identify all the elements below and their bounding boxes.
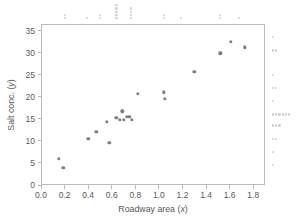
x-tick-mark	[64, 185, 65, 189]
y-marginal-dot	[272, 87, 274, 89]
x-marginal-dot	[99, 14, 101, 16]
y-marginal-dot	[272, 124, 274, 126]
y-tick-label: 20	[26, 93, 35, 102]
x-tick-mark	[206, 185, 207, 189]
x-tick-label: 0.4	[82, 191, 94, 200]
x-tick-mark	[182, 185, 183, 189]
y-marginal-dot	[275, 124, 277, 126]
x-tick-mark	[253, 185, 254, 189]
x-marginal-dot	[180, 17, 182, 19]
x-tick-label: 1.8	[247, 191, 259, 200]
x-marginal-dot	[115, 4, 117, 6]
y-marginal-dot	[278, 113, 280, 115]
y-marginal-dot	[272, 74, 274, 76]
y-marginal-dot	[275, 87, 277, 89]
y-tick-mark	[38, 185, 42, 186]
y-axis-variable: y	[6, 82, 16, 86]
x-tick-label: 1.2	[177, 191, 189, 200]
plot-area-frame	[41, 24, 265, 185]
y-axis-title: Salt conc. (y)	[7, 79, 16, 130]
x-tick-mark	[229, 185, 230, 189]
x-tick-label: 0.0	[35, 191, 47, 200]
y-marginal-dot	[272, 151, 274, 153]
x-marginal-dot	[115, 7, 117, 9]
y-marginal-dot	[275, 138, 277, 140]
y-tick-mark	[38, 96, 42, 97]
y-tick-mark	[38, 52, 42, 53]
y-tick-mark	[38, 74, 42, 75]
y-tick-mark	[38, 30, 42, 31]
x-marginal-dot	[163, 17, 165, 19]
y-tick-label: 25	[26, 70, 35, 79]
x-marginal-dot	[163, 14, 165, 16]
y-marginal-dot	[288, 113, 290, 115]
x-tick-mark	[158, 185, 159, 189]
y-marginal-dot	[275, 49, 277, 51]
y-tick-mark	[38, 118, 42, 119]
y-tick-mark	[38, 162, 42, 163]
y-marginal-dot	[275, 113, 277, 115]
y-tick-label: 35	[26, 26, 35, 35]
y-marginal-dot	[272, 36, 274, 38]
y-marginal-dot	[278, 124, 280, 126]
x-marginal-dot	[115, 14, 117, 16]
scatter-plot-figure: 0.00.20.40.60.81.01.21.41.61.8 051015202…	[0, 0, 301, 220]
x-tick-label: 1.0	[153, 191, 165, 200]
x-marginal-dot	[219, 14, 221, 16]
x-marginal-dot	[115, 17, 117, 19]
x-marginal-dot	[130, 11, 132, 13]
y-marginal-dot	[272, 164, 274, 166]
x-marginal-dot	[99, 17, 101, 19]
x-tick-label: 1.6	[224, 191, 236, 200]
x-marginal-dot	[63, 14, 65, 16]
y-tick-label: 0	[30, 181, 35, 190]
x-tick-label: 0.6	[106, 191, 118, 200]
x-tick-label: 1.4	[200, 191, 212, 200]
x-marginal-dot	[115, 11, 117, 13]
y-tick-label: 30	[26, 48, 35, 57]
x-marginal-dot	[238, 17, 240, 19]
x-tick-mark	[111, 185, 112, 189]
x-axis-title: Roadway area (x)	[118, 205, 187, 214]
x-marginal-dot	[130, 14, 132, 16]
x-tick-mark	[41, 185, 42, 189]
y-marginal-dot	[272, 113, 274, 115]
y-tick-mark	[38, 140, 42, 141]
y-marginal-dot	[272, 100, 274, 102]
x-tick-label: 0.2	[59, 191, 71, 200]
y-tick-label: 5	[30, 159, 35, 168]
y-marginal-dot	[285, 113, 287, 115]
x-tick-label: 0.8	[129, 191, 141, 200]
x-marginal-dot	[219, 17, 221, 19]
y-marginal-dot	[272, 138, 274, 140]
x-tick-mark	[135, 185, 136, 189]
y-tick-label: 15	[26, 115, 35, 124]
x-marginal-dot	[63, 17, 65, 19]
x-axis-variable: x	[180, 204, 184, 214]
x-tick-mark	[88, 185, 89, 189]
y-tick-label: 10	[26, 137, 35, 146]
x-marginal-dot	[130, 7, 132, 9]
x-marginal-dot	[130, 17, 132, 19]
y-marginal-dot	[272, 49, 274, 51]
y-marginal-dot	[282, 113, 284, 115]
x-marginal-dot	[86, 17, 88, 19]
